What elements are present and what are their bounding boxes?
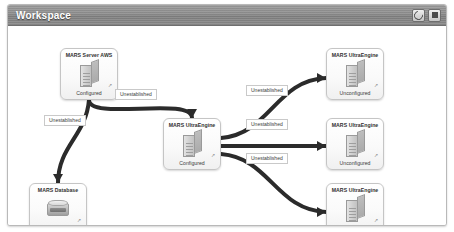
- edge-label-e4[interactable]: Unestablished: [246, 119, 288, 130]
- node-badge-icon: ↗: [374, 218, 378, 223]
- edge-label-e2[interactable]: Unestablished: [44, 115, 86, 126]
- node-status: Configured: [76, 90, 101, 96]
- edge-arrowhead-e1: [187, 109, 197, 118]
- node-status: Unconfigured: [340, 90, 371, 96]
- diagram-node-ultra-top[interactable]: MARS UltraEngine↗Unconfigured: [326, 48, 384, 100]
- node-glyph: ↗: [327, 193, 383, 225]
- server-icon: [80, 62, 99, 87]
- edge-label-e1[interactable]: Unestablished: [115, 89, 157, 100]
- server-icon: [346, 132, 365, 157]
- refresh-icon: [412, 9, 425, 22]
- node-badge-icon: ↗: [211, 153, 215, 158]
- window-title: Workspace: [16, 10, 71, 21]
- diagram-node-ultra-mid[interactable]: MARS UltraEngine↗Unconfigured: [326, 118, 384, 170]
- diagram-node-server-aws[interactable]: MARS Server AWS↗Configured: [60, 48, 118, 100]
- server-icon: [346, 62, 365, 87]
- edge-arrowhead-e2: [53, 174, 63, 183]
- node-badge-icon: ↗: [374, 153, 378, 158]
- diagram-canvas[interactable]: MARS Server AWS↗ConfiguredMARS UltraEngi…: [8, 26, 446, 226]
- node-glyph: ↗: [164, 128, 220, 160]
- diagram-node-ultra-bot[interactable]: MARS UltraEngine↗Unconfigured: [326, 183, 384, 226]
- node-status: Configured: [179, 160, 204, 166]
- edge-arrowhead-e4: [317, 141, 326, 151]
- node-glyph: ↗: [327, 128, 383, 160]
- edge-arrowhead-e3: [317, 73, 326, 83]
- database-icon: [47, 199, 69, 219]
- node-glyph: ↗: [61, 58, 117, 90]
- square-icon: [432, 12, 438, 18]
- node-status: Unconfigured: [340, 225, 371, 226]
- edge-label-e3[interactable]: Unestablished: [246, 85, 288, 96]
- titlebar-button-group: [412, 9, 441, 22]
- stop-button[interactable]: [428, 9, 441, 22]
- edge-arrowhead-e5: [317, 207, 326, 217]
- node-glyph: ↗: [30, 193, 86, 225]
- server-icon: [183, 132, 202, 157]
- diagram-edge-e1[interactable]: [89, 100, 192, 118]
- diagram-node-database[interactable]: MARS Database↗Configured: [29, 183, 87, 226]
- workspace-panel: Workspace MARS Server AWS↗ConfiguredMARS…: [7, 4, 447, 226]
- node-glyph: ↗: [327, 58, 383, 90]
- node-badge-icon: ↗: [374, 83, 378, 88]
- refresh-button[interactable]: [412, 9, 425, 22]
- node-status: Unconfigured: [340, 160, 371, 166]
- edge-label-e5[interactable]: Unestablished: [246, 153, 288, 164]
- node-badge-icon: ↗: [77, 218, 81, 223]
- node-status: Configured: [45, 225, 70, 226]
- server-icon: [346, 197, 365, 222]
- window-titlebar: Workspace: [8, 5, 446, 26]
- diagram-node-ultra-center[interactable]: MARS UltraEngine↗Configured: [163, 118, 221, 170]
- node-badge-icon: ↗: [108, 83, 112, 88]
- diagram-edge-e2[interactable]: [58, 100, 89, 183]
